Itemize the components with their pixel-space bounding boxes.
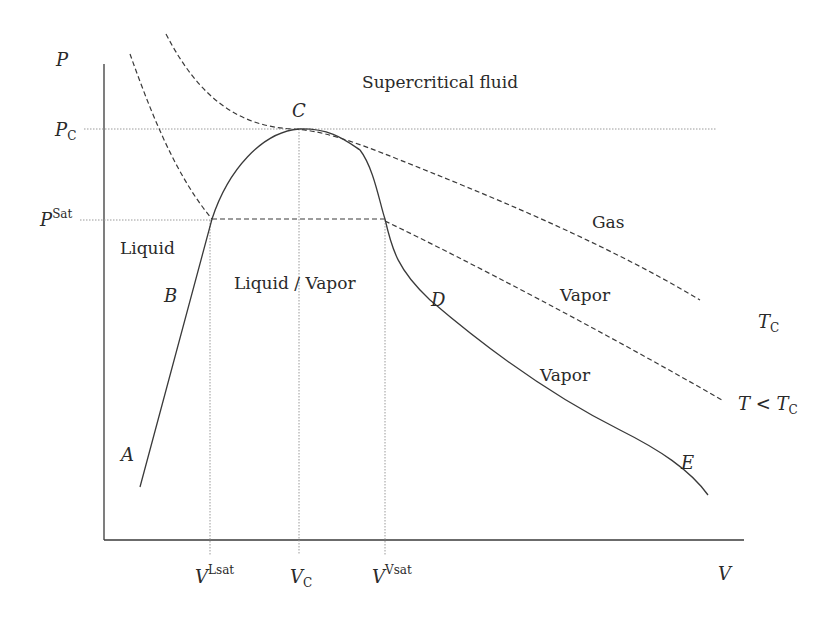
supercritical-region-label: Supercritical fluid	[362, 72, 518, 92]
y-axis-label: P	[55, 49, 69, 70]
pc-label: PC	[54, 119, 76, 143]
vlsat-label: VLsat	[195, 563, 234, 587]
point-d-label: D	[430, 289, 446, 310]
psat-label: PSat	[39, 207, 73, 230]
liquid-vapor-region-label: Liquid / Vapor	[234, 273, 356, 293]
vapor-lower-region-label: Vapor	[539, 365, 591, 385]
tc-isotherm-label: TC	[758, 311, 779, 335]
vc-label: VC	[290, 566, 312, 590]
point-b-label: B	[163, 285, 177, 306]
pv-phase-diagram: P V PC PSat VLsat VC VVsat Supercritical…	[0, 0, 836, 620]
vvsat-label: VVsat	[372, 563, 412, 587]
t-less-than-tc-label: T < TC	[738, 393, 798, 417]
liquid-region-label: Liquid	[120, 238, 175, 258]
point-c-label: C	[292, 100, 306, 121]
x-axis-label: V	[718, 563, 733, 584]
subcritical-isotherm	[130, 54, 212, 219]
vapor-upper-region-label: Vapor	[559, 285, 611, 305]
gas-region-label: Gas	[592, 212, 624, 232]
point-a-label: A	[119, 444, 134, 465]
saturation-dome	[140, 129, 708, 495]
point-e-label: E	[680, 452, 694, 473]
